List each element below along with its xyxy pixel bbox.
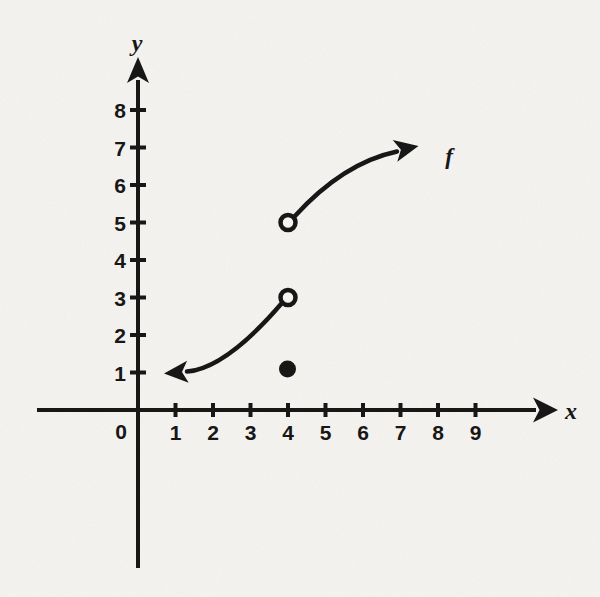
paper-noise-texture [0,0,600,597]
y-tick-label-2: 2 [114,324,126,347]
x-tick-label-1: 1 [170,421,182,444]
origin-label: 0 [115,420,127,443]
x-tick-label-9: 9 [470,421,482,444]
y-tick-label-3: 3 [114,287,126,310]
filled-point-4-1 [279,361,296,378]
y-tick-label-5: 5 [114,212,126,235]
y-tick-label-7: 7 [114,137,126,160]
y-tick-label-4: 4 [114,249,126,272]
x-tick-label-2: 2 [207,421,219,444]
x-tick-labels: 1 2 3 4 5 6 7 8 9 [170,421,482,444]
x-tick-label-8: 8 [432,421,444,444]
x-axis-label: x [564,398,577,424]
x-tick-label-6: 6 [357,421,369,444]
y-axis-label: y [129,30,143,56]
x-tick-label-3: 3 [245,421,257,444]
y-tick-label-1: 1 [114,362,126,385]
y-tick-label-6: 6 [114,174,126,197]
x-tick-label-4: 4 [282,421,294,444]
y-tick-label-8: 8 [114,99,126,122]
open-point-4-5 [281,215,296,230]
x-tick-label-5: 5 [320,421,332,444]
open-point-4-3 [281,290,296,305]
x-tick-label-7: 7 [395,421,407,444]
graph-figure: y x 0 1 2 3 4 5 6 7 8 9 [0,0,600,597]
